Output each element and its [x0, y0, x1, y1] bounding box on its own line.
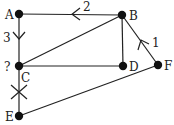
weight-label-bf: 1	[152, 36, 160, 50]
node-label-d: D	[129, 60, 139, 74]
weight-label-ac: 3	[3, 31, 11, 45]
edge-b-d	[122, 15, 123, 66]
node-d	[119, 62, 127, 70]
node-label-c: C	[21, 71, 30, 85]
unknown-label: ?	[4, 60, 10, 74]
node-label-a: A	[4, 8, 14, 22]
node-label-f: F	[164, 59, 172, 73]
graph-svg: A B C D E F ? 2 3 1	[0, 0, 174, 125]
node-label-e: E	[5, 110, 14, 124]
node-a	[15, 10, 23, 18]
node-f	[154, 61, 162, 69]
weight-label-ab: 2	[83, 0, 91, 14]
edge-a-b	[19, 14, 122, 15]
graph-diagram: A B C D E F ? 2 3 1	[0, 0, 174, 125]
node-b	[118, 11, 126, 19]
node-label-b: B	[129, 9, 138, 23]
node-e	[15, 112, 23, 120]
edge-b-c	[19, 15, 122, 66]
node-c	[15, 62, 23, 70]
